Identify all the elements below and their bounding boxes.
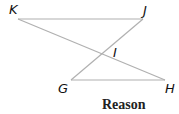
point-label-k: K bbox=[9, 3, 18, 16]
point-label-h: H bbox=[165, 82, 175, 95]
segments bbox=[0, 0, 179, 114]
segment-jg bbox=[71, 19, 143, 80]
geometry-diagram: K J I G H Reason bbox=[0, 0, 179, 114]
reason-heading: Reason bbox=[102, 97, 146, 113]
point-label-i: I bbox=[113, 46, 117, 59]
point-label-g: G bbox=[58, 82, 68, 95]
segment-kh bbox=[18, 19, 165, 80]
point-label-j: J bbox=[143, 4, 147, 17]
